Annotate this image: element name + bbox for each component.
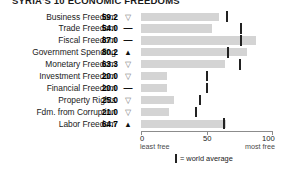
row-plot: [141, 23, 273, 35]
economic-freedoms-chart: SYRIA'S 10 ECONOMIC FREEDOMS Business Fr…: [0, 0, 283, 171]
row-plot: [141, 94, 273, 106]
legend-label: = world average: [180, 154, 233, 163]
score-bar: [141, 96, 174, 104]
row-plot: [141, 59, 273, 71]
world-average-marker: [199, 95, 201, 106]
trend-down-icon: ▽: [122, 107, 134, 118]
row-plot: [141, 35, 273, 47]
table-row: Investment Freedom 20.0 ▽: [0, 70, 283, 82]
score-bar: [141, 72, 167, 80]
world-average-marker: [240, 35, 242, 46]
row-value: 25.0: [100, 95, 118, 106]
row-value: 20.0: [100, 71, 118, 82]
row-value: 54.0: [100, 23, 118, 34]
trend-down-icon: ▽: [122, 59, 134, 70]
page-title: SYRIA'S 10 ECONOMIC FREEDOMS: [12, 0, 272, 4]
table-row: Property Rights 25.0 ▽: [0, 94, 283, 106]
x-axis: [141, 131, 273, 132]
score-bar: [141, 13, 219, 21]
axis-most-free-label: most free: [245, 143, 275, 151]
trend-flat-icon: —: [122, 23, 134, 34]
row-plot: [141, 82, 273, 94]
row-value: 20.0: [100, 83, 118, 94]
axis-least-free-label: least free: [140, 143, 170, 151]
world-average-marker: [223, 118, 225, 129]
world-average-marker: [239, 59, 241, 70]
score-bar: [141, 108, 169, 116]
row-plot: [141, 70, 273, 82]
row-plot: [141, 47, 273, 59]
world-average-marker: [226, 11, 228, 22]
table-row: Fdm. from Corruption 21.0 ▽: [0, 106, 283, 118]
row-value: 80.2: [100, 47, 118, 58]
trend-up-icon: ▲: [122, 119, 134, 130]
score-bar: [141, 120, 226, 128]
world-average-marker: [240, 23, 242, 34]
row-value: 87.0: [100, 35, 118, 46]
score-bar: [141, 60, 225, 68]
trend-down-icon: ▽: [122, 71, 134, 82]
table-row: Financial Freedom 20.0 —: [0, 82, 283, 94]
row-value: 59.2: [100, 12, 118, 23]
score-bar: [141, 48, 247, 56]
row-plot: [141, 118, 273, 130]
trend-down-icon: ▽: [122, 95, 134, 106]
row-value: 21.0: [100, 107, 118, 118]
world-average-marker: [195, 107, 197, 118]
world-average-marker-icon: [175, 154, 177, 163]
row-plot: [141, 11, 273, 23]
table-row: Monetary Freedom 63.3 ▽: [0, 59, 283, 71]
table-row: Trade Freedom 54.0 —: [0, 23, 283, 35]
world-average-marker: [206, 71, 208, 82]
world-average-marker: [227, 47, 229, 58]
row-value: 63.3: [100, 59, 118, 70]
table-row: Business Freedom 59.2 ▽: [0, 11, 283, 23]
trend-down-icon: ▽: [122, 12, 134, 23]
freedom-rows: Business Freedom 59.2 ▽ Trade Freedom 54…: [0, 11, 283, 130]
trend-up-icon: ▲: [122, 47, 134, 58]
score-bar: [141, 36, 256, 44]
trend-flat-icon: —: [122, 35, 134, 46]
score-bar: [141, 84, 167, 92]
row-value: 64.7: [100, 119, 118, 130]
table-row: Labor Freedom 64.7 ▲: [0, 118, 283, 130]
axis-tick-label-50: 50: [203, 135, 211, 143]
table-row: Government Spending 80.2 ▲: [0, 47, 283, 59]
score-bar: [141, 24, 212, 32]
chart-legend: = world average: [175, 154, 233, 163]
world-average-marker: [206, 83, 208, 94]
trend-flat-icon: —: [122, 83, 134, 94]
row-plot: [141, 106, 273, 118]
table-row: Fiscal Freedom 87.0 —: [0, 35, 283, 47]
